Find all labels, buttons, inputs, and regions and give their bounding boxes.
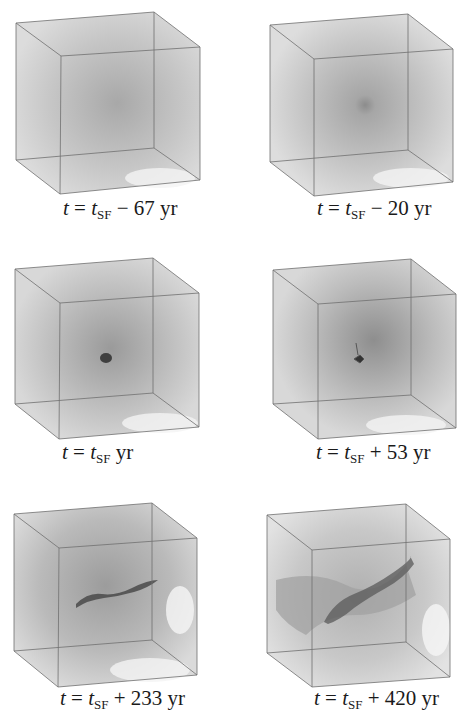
time-caption: t = tSF − 67 yr — [63, 196, 178, 223]
panel-t-plus-53: t = tSF + 53 yr — [236, 235, 472, 473]
time-caption: t = tSF + 420 yr — [314, 686, 439, 713]
time-caption: t = tSF yr — [62, 440, 133, 467]
panel-t-minus-20: t = tSF − 20 yr — [236, 0, 472, 238]
right-clear-region — [166, 586, 194, 634]
panel-t-sf: t = tSF yr — [0, 235, 236, 473]
cube-render — [236, 235, 472, 473]
panel-t-plus-420: t = tSF + 420 yr — [236, 470, 472, 714]
time-caption: t = tSF − 20 yr — [317, 196, 432, 223]
right-clear-region — [422, 604, 450, 656]
dense-core — [100, 353, 112, 363]
cube-render — [236, 470, 472, 714]
cube-render — [0, 235, 236, 473]
panel-t-plus-233: t = tSF + 233 yr — [0, 470, 236, 714]
time-caption: t = tSF + 53 yr — [316, 440, 431, 467]
time-caption: t = tSF + 233 yr — [60, 686, 185, 713]
gas-volume — [15, 258, 199, 439]
panel-t-minus-67: t = tSF − 67 yr — [0, 0, 236, 238]
cube-render — [0, 470, 236, 714]
bottom-clear-region — [125, 168, 195, 188]
gas-volume — [16, 12, 200, 194]
bottom-clear-region — [110, 658, 190, 682]
gas-volume — [270, 14, 453, 196]
gas-volume — [273, 259, 456, 439]
